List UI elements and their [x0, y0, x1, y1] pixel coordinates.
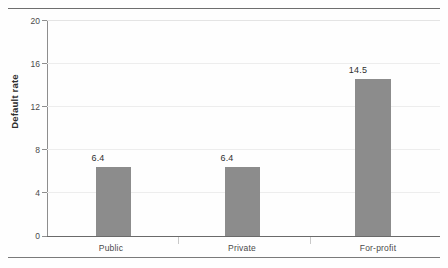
bar-value-private: 6.4: [205, 153, 249, 163]
bar-private[interactable]: [225, 167, 260, 236]
top-rule: [8, 8, 440, 9]
x-separator-2: [310, 237, 311, 244]
plot-area: [47, 20, 440, 236]
x-separator-1: [178, 237, 179, 244]
bar-value-public: 6.4: [76, 153, 120, 163]
y-tick-label-0: 0: [14, 231, 40, 241]
y-tick-label-8: 8: [14, 145, 40, 155]
y-tick-label-4: 4: [14, 188, 40, 198]
bar-public[interactable]: [96, 167, 131, 236]
bottom-rule: [8, 257, 440, 258]
gridline-20: [47, 20, 440, 21]
bar-for-profit[interactable]: [355, 79, 391, 236]
bar-chart-figure: Default rate 20 16 12 8 4 0 6.4 6.4 14.5…: [0, 0, 448, 268]
x-label-public: Public: [76, 243, 146, 253]
gridline-16: [47, 63, 440, 64]
y-tick-label-16: 16: [14, 59, 40, 69]
x-label-private: Private: [207, 243, 277, 253]
y-tick-label-12: 12: [14, 102, 40, 112]
y-tick-label-20: 20: [14, 16, 40, 26]
x-label-for-profit: For-profit: [338, 243, 418, 253]
x-axis-line: [47, 236, 440, 237]
bar-value-for-profit: 14.5: [335, 65, 381, 75]
